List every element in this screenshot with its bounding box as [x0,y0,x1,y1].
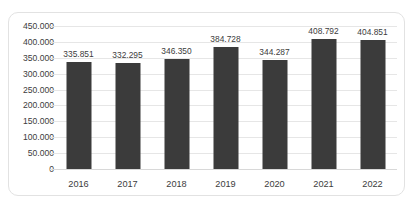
plot-area: 335.8512016332.2952017346.3502018384.728… [54,13,397,197]
bar[interactable] [360,40,385,169]
x-axis-tick-label: 2021 [313,180,333,189]
chart-frame: 050.000100.000150.000200.000250.000300.0… [8,12,405,196]
bar[interactable] [115,63,140,169]
y-axis-tick-label: 100.000 [12,133,54,142]
y-axis-tick-label: 150.000 [12,117,54,126]
bar-group: 404.8512022 [348,13,397,197]
y-axis-tick-label: 50.000 [12,149,54,158]
bar[interactable] [164,59,189,169]
y-axis-tick-label: 200.000 [12,101,54,110]
bar-group: 408.7922021 [299,13,348,197]
bar-value-label: 408.792 [308,27,338,35]
x-axis-tick-label: 2018 [166,180,186,189]
y-axis-tick-label: 250.000 [12,85,54,94]
bar-value-label: 404.851 [357,28,387,36]
bar-group: 332.2952017 [103,13,152,197]
bar-group: 384.7282019 [201,13,250,197]
bar[interactable] [213,47,238,169]
y-axis-tick-label: 400.000 [12,38,54,47]
bar-value-label: 344.287 [259,48,289,56]
bar-value-label: 346.350 [161,47,191,55]
bar-group: 344.2872020 [250,13,299,197]
bar-group: 346.3502018 [152,13,201,197]
y-axis: 050.000100.000150.000200.000250.000300.0… [9,13,54,197]
chart-plot-wrapper: 050.000100.000150.000200.000250.000300.0… [9,13,406,197]
bar[interactable] [66,62,91,169]
y-axis-tick-label: 300.000 [12,69,54,78]
x-axis-tick-label: 2022 [362,180,382,189]
x-axis-tick-label: 2017 [117,180,137,189]
x-axis-tick-label: 2020 [264,180,284,189]
bar[interactable] [311,39,336,169]
bar-value-label: 384.728 [210,35,240,43]
y-axis-tick-label: 0 [12,165,54,174]
bar-group: 335.8512016 [54,13,103,197]
bar-value-label: 335.851 [63,50,93,58]
bar[interactable] [262,60,287,169]
bar-value-label: 332.295 [112,51,142,59]
x-axis-tick-label: 2019 [215,180,235,189]
y-axis-tick-label: 450.000 [12,22,54,31]
x-axis-tick-label: 2016 [68,180,88,189]
y-axis-tick-label: 350.000 [12,53,54,62]
